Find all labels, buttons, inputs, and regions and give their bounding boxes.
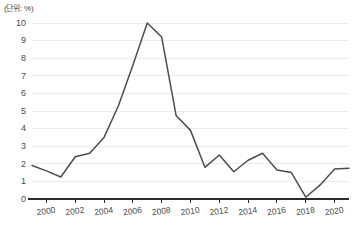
y-axis-tick-label: 9 [21, 35, 26, 45]
chart-svg: 012345678910 200020022004200620082010201… [0, 0, 356, 230]
y-axis-tick-label: 7 [21, 71, 26, 81]
x-axis-tick-label: 2006 [122, 205, 142, 218]
x-axis [28, 199, 349, 203]
x-axis-tick-label: 2012 [209, 205, 229, 218]
y-axis-tick-label: 4 [21, 123, 26, 133]
y-axis-tick-label: 0 [21, 194, 26, 204]
chart-container: (단위: %) 012345678910 2000200220042006200… [0, 0, 356, 230]
y-axis-labels: 012345678910 [16, 18, 26, 204]
y-axis-tick-label: 6 [21, 88, 26, 98]
plot-area: 012345678910 200020022004200620082010201… [0, 0, 356, 230]
x-axis-tick-label: 2010 [180, 205, 200, 218]
y-axis-tick-label: 1 [21, 176, 26, 186]
x-axis-tick-label: 2002 [65, 205, 85, 218]
x-axis-tick-label: 2020 [324, 205, 344, 218]
y-axis-tick-label: 3 [21, 141, 26, 151]
y-axis-tick-label: 10 [16, 18, 26, 28]
x-axis-tick-label: 2004 [94, 205, 114, 218]
x-axis-tick-label: 2014 [238, 205, 258, 218]
x-axis-tick-label: 2000 [36, 205, 56, 218]
y-axis-tick-label: 5 [21, 106, 26, 116]
x-axis-tick-label: 2008 [151, 205, 171, 218]
series-line [32, 23, 349, 197]
data-series [32, 23, 349, 197]
x-axis-tick-label: 2016 [266, 205, 286, 218]
x-axis-labels: 2000200220042006200820102012201420162018… [36, 205, 345, 218]
gridlines [32, 23, 349, 181]
y-axis-tick-label: 8 [21, 53, 26, 63]
x-axis-tick-label: 2018 [295, 205, 315, 218]
y-axis-tick-label: 2 [21, 159, 26, 169]
